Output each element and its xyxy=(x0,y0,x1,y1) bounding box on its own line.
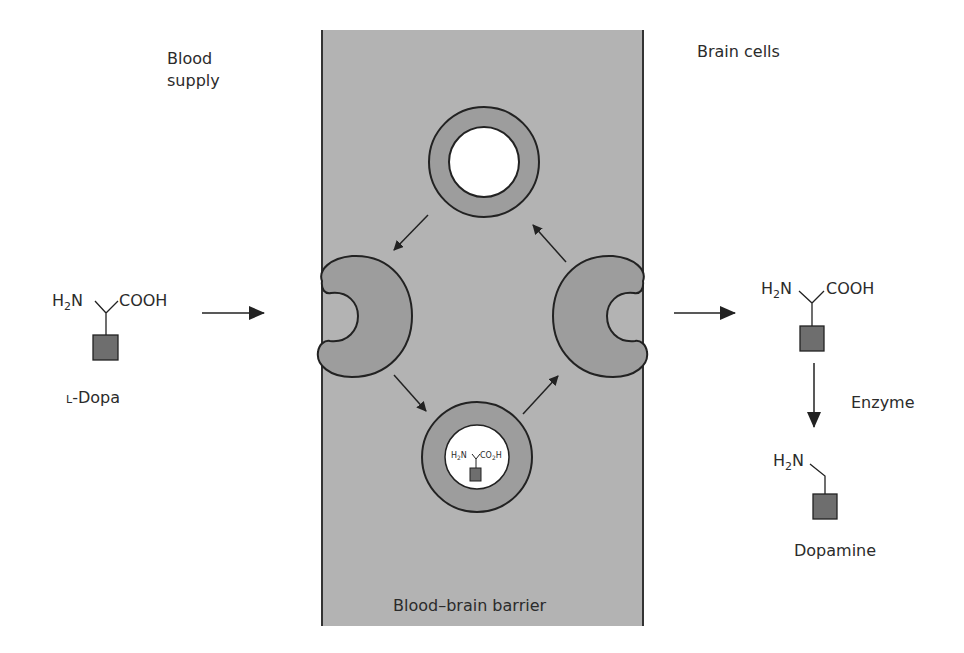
barrier-label: Blood–brain barrier xyxy=(393,596,546,615)
svg-text:COOH: COOH xyxy=(826,279,874,298)
brain-cells-label: Brain cells xyxy=(697,42,780,61)
blood-supply-label-line1: Blood xyxy=(167,49,212,68)
vesicle-loaded: H2N CO2H xyxy=(422,402,532,512)
ldopa-brain-molecule: H2N COOH xyxy=(761,279,874,351)
ldopa-label: L-Dopa xyxy=(66,388,120,407)
svg-text:COOH: COOH xyxy=(119,291,167,310)
blood-brain-barrier-diagram: Blood supply Brain cells Blood–brain bar… xyxy=(0,0,964,653)
svg-text:CO2H: CO2H xyxy=(480,451,502,461)
vesicle-empty xyxy=(429,107,539,217)
ldopa-molecule: H2N COOH xyxy=(52,291,167,360)
svg-text:H2N: H2N xyxy=(52,291,83,313)
dopamine-label: Dopamine xyxy=(794,541,876,560)
svg-text:H2N: H2N xyxy=(761,279,792,301)
enzyme-label: Enzyme xyxy=(851,393,915,412)
dopamine-molecule: H2N xyxy=(773,451,837,519)
svg-text:H2N: H2N xyxy=(773,451,804,473)
blood-supply-label-line2: supply xyxy=(167,71,220,90)
